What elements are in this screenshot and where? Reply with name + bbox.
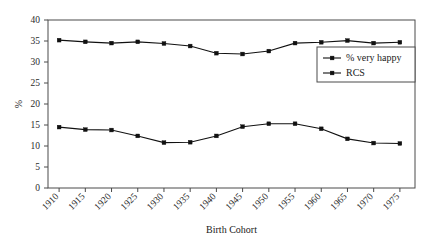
x-tick-label: 1960 (302, 191, 323, 212)
data-point-marker (162, 42, 166, 46)
x-tick-label: 1950 (250, 191, 271, 212)
line-chart: 0510152025303540 19101915192019251930193… (0, 0, 438, 243)
data-point-marker (110, 128, 114, 132)
data-point-marker (188, 44, 192, 48)
x-tick-label: 1940 (197, 191, 218, 212)
data-point-marker (136, 134, 140, 138)
y-tick-label: 30 (31, 57, 41, 67)
data-point-marker (136, 40, 140, 44)
x-axis-title: Birth Cohort (206, 224, 257, 235)
data-point-marker (398, 40, 402, 44)
data-point-marker (188, 140, 192, 144)
data-point-marker (267, 122, 271, 126)
data-point-marker (57, 125, 61, 129)
data-point-marker (214, 134, 218, 138)
data-point-marker (110, 41, 114, 45)
data-point-marker (57, 38, 61, 42)
chart-legend[interactable]: % very happyRCS (317, 47, 415, 82)
y-axis-title: % (13, 100, 24, 108)
data-point-marker (162, 141, 166, 145)
x-axis: 1910191519201925193019351940194519501955… (40, 188, 401, 212)
x-tick-label: 1930 (145, 191, 166, 212)
plot-frame (48, 20, 415, 188)
x-tick-label: 1910 (40, 191, 61, 212)
x-tick-label: 1945 (224, 191, 245, 212)
legend-sample-marker (330, 71, 334, 75)
x-tick-label: 1965 (328, 191, 349, 212)
series-2 (57, 122, 402, 146)
data-point-marker (241, 125, 245, 129)
y-tick-label: 5 (35, 162, 40, 172)
x-tick-label: 1920 (92, 191, 113, 212)
data-point-marker (83, 40, 87, 44)
x-tick-label: 1915 (66, 191, 87, 212)
data-point-marker (346, 39, 350, 43)
data-point-marker (346, 137, 350, 141)
data-point-marker (293, 122, 297, 126)
data-point-marker (398, 142, 402, 146)
y-tick-label: 10 (31, 141, 41, 151)
data-point-marker (241, 52, 245, 56)
x-tick-label: 1970 (355, 191, 376, 212)
x-tick-label: 1975 (381, 191, 402, 212)
y-tick-label: 25 (31, 78, 41, 88)
x-tick-label: 1925 (119, 191, 140, 212)
y-tick-label: 0 (35, 183, 40, 193)
data-point-marker (319, 127, 323, 131)
data-point-marker (214, 51, 218, 55)
y-tick-label: 35 (31, 36, 41, 46)
y-tick-label: 20 (31, 99, 41, 109)
y-tick-label: 15 (31, 120, 41, 130)
y-tick-label: 40 (31, 15, 41, 25)
x-tick-label: 1935 (171, 191, 192, 212)
data-point-marker (372, 41, 376, 45)
chart-container: 0510152025303540 19101915192019251930193… (0, 0, 438, 243)
data-point-marker (83, 128, 87, 132)
x-tick-label: 1955 (276, 191, 297, 212)
y-axis: 0510152025303540 (31, 15, 49, 193)
legend-label[interactable]: RCS (346, 67, 365, 78)
data-point-marker (267, 49, 271, 53)
legend-label[interactable]: % very happy (346, 52, 402, 63)
data-point-marker (319, 40, 323, 44)
data-point-marker (293, 41, 297, 45)
data-point-marker (372, 141, 376, 145)
legend-sample-marker (330, 56, 334, 60)
